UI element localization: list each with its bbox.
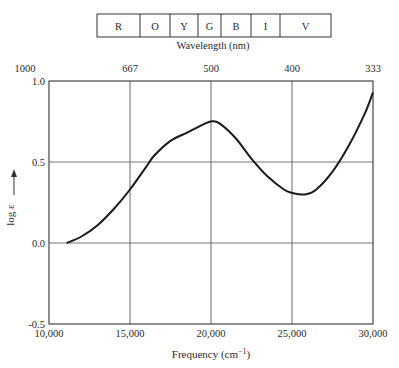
top-wavelength-axis: 1000667500400333 xyxy=(15,63,381,74)
y-tick-label: 1.0 xyxy=(32,76,45,87)
x-tick-label: 25,000 xyxy=(278,328,307,339)
top-tick-label: 1000 xyxy=(15,63,36,74)
x-axis-ticks: 10,00015,00020,00025,00030,000 xyxy=(35,328,388,339)
svg-text:log ε: log ε xyxy=(4,204,16,226)
x-tick-label: 15,000 xyxy=(116,328,145,339)
band-o: O xyxy=(151,21,159,32)
top-tick-label: 400 xyxy=(284,63,300,74)
y-axis-label: log ε xyxy=(4,204,16,226)
visible-spectrum-bar: ROYGBIV xyxy=(97,14,331,37)
top-tick-label: 333 xyxy=(365,63,381,74)
band-r: R xyxy=(115,21,122,32)
top-tick-label: 500 xyxy=(203,63,219,74)
y-tick-label: -0.5 xyxy=(28,319,45,330)
x-axis-label: Frequency (cm−1) xyxy=(172,347,251,361)
band-v: V xyxy=(302,21,310,32)
band-i: I xyxy=(264,21,268,32)
x-tick-label: 30,000 xyxy=(359,328,388,339)
spectrum-bar-label: Wavelength (nm) xyxy=(177,40,250,52)
y-tick-label: 0.5 xyxy=(32,157,45,168)
chart-gridlines xyxy=(49,81,373,324)
band-y: Y xyxy=(180,21,188,32)
x-tick-label: 20,000 xyxy=(197,328,226,339)
band-g: G xyxy=(206,21,214,32)
band-b: B xyxy=(232,21,239,32)
y-tick-label: 0.0 xyxy=(32,238,45,249)
absorption-chart: ROYGBIV Wavelength (nm) 1000667500400333… xyxy=(0,0,399,368)
absorption-curve xyxy=(67,92,373,243)
y-axis-ticks: -0.50.00.51.0 xyxy=(28,76,45,330)
top-tick-label: 667 xyxy=(122,63,138,74)
y-axis-arrow-icon xyxy=(11,169,17,195)
